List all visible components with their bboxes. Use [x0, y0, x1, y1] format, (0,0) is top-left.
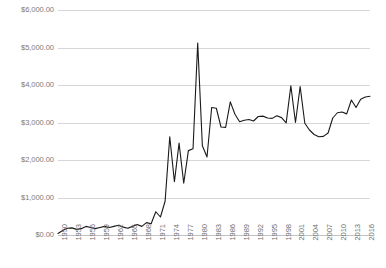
y-tick-label: $3,000.00 [0, 119, 54, 127]
x-tick-label: 1983 [215, 224, 223, 241]
y-axis: $0.00$1,000.00$2,000.00$3,000.00$4,000.0… [0, 0, 54, 268]
y-tick-label: $6,000.00 [0, 6, 54, 14]
x-tick-label: 1986 [229, 224, 237, 241]
x-tick-label: 1992 [257, 224, 265, 241]
x-tick-label: 2007 [326, 224, 334, 241]
plot-area [58, 10, 370, 235]
x-tick-label: 1962 [117, 224, 125, 241]
x-tick-label: 2016 [368, 224, 376, 241]
x-tick-label: 2004 [312, 224, 320, 241]
line-chart: $0.00$1,000.00$2,000.00$3,000.00$4,000.0… [0, 0, 386, 268]
x-tick-label: 1977 [187, 224, 195, 241]
x-tick-label: 2013 [354, 224, 362, 241]
x-tick-label: 1965 [131, 224, 139, 241]
x-tick-label: 1995 [271, 224, 279, 241]
x-tick-label: 1959 [103, 224, 111, 241]
x-tick-label: 1980 [201, 224, 209, 241]
x-tick-label: 1968 [145, 224, 153, 241]
series-polyline [58, 43, 370, 234]
x-tick-label: 2010 [340, 224, 348, 241]
x-tick-label: 1956 [89, 224, 97, 241]
series-line [58, 10, 370, 235]
x-axis: 1950195319561959196219651968197119741977… [58, 224, 370, 268]
x-tick-label: 1989 [243, 224, 251, 241]
y-tick-label: $1,000.00 [0, 194, 54, 202]
x-tick-label: 2001 [298, 224, 306, 241]
y-tick-label: $5,000.00 [0, 44, 54, 52]
y-tick-label: $2,000.00 [0, 156, 54, 164]
y-tick-label: $0.00 [0, 231, 54, 239]
x-tick-label: 1974 [173, 224, 181, 241]
x-tick-label: 1953 [75, 224, 83, 241]
y-tick-label: $4,000.00 [0, 81, 54, 89]
x-tick-label: 1971 [159, 224, 167, 241]
x-tick-label: 1998 [285, 224, 293, 241]
x-tick-label: 1950 [61, 224, 69, 241]
